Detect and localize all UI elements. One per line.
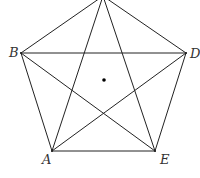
vertex-D-point [185,52,187,54]
vertex-label-B: B [8,45,19,60]
vertex-label-E: E [159,152,170,167]
vertex-label-D: D [189,46,200,61]
pentagon-diagram: B D A E [0,0,200,178]
diagonal-DA [52,53,186,151]
side-CD [103,0,186,53]
diagonal-CE [103,0,155,151]
side-BA [21,53,52,151]
diagonal-CA [52,0,103,151]
center-point [102,78,106,82]
vertex-E-point [154,150,156,152]
vertex-label-A: A [41,152,51,167]
side-CB [21,0,103,53]
diagonal-BE [21,53,155,151]
side-DE [155,53,186,151]
vertex-B-point [20,52,22,54]
